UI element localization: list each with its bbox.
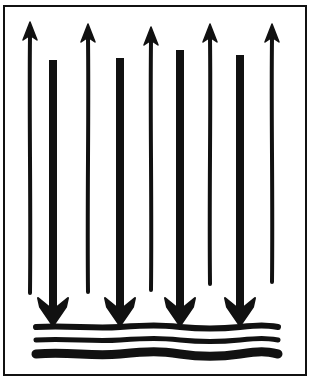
up-arrow [144, 27, 158, 290]
arrows-surface-diagram [0, 0, 313, 382]
down-arrow [105, 58, 135, 326]
surface-layers [36, 326, 278, 357]
surface-line [36, 352, 278, 357]
up-arrow [203, 24, 217, 284]
up-arrow [23, 22, 37, 293]
up-arrow [265, 24, 279, 282]
diagram-canvas [0, 0, 313, 382]
surface-line [36, 339, 278, 342]
surface-line [36, 326, 278, 329]
downward-arrows [38, 50, 255, 326]
up-arrow [81, 24, 95, 292]
down-arrow [225, 55, 255, 326]
down-arrow [38, 60, 68, 326]
down-arrow [165, 50, 195, 326]
